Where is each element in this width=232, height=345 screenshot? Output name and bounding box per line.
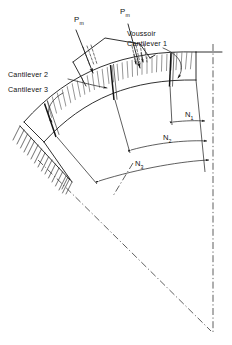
label-cantilever-2: Cantilever 2: [8, 70, 48, 79]
text-labels: Voussoir Cantilever 1 Cantilever 2 Canti…: [8, 7, 167, 94]
arch-dam-diagram: Voussoir Cantilever 1 Cantilever 2 Canti…: [0, 0, 232, 345]
label-load-left-subscript: m: [80, 20, 84, 26]
label-cantilever-3: Cantilever 3: [8, 85, 48, 94]
ext-line-joint-1: [170, 86, 172, 125]
abutment-lower-edge: [44, 142, 72, 182]
diagram-canvas: Voussoir Cantilever 1 Cantilever 2 Canti…: [0, 0, 232, 345]
dim-arc-n3: [99, 160, 209, 181]
label-load-right-subscript: m: [126, 12, 130, 18]
ext-line-joint-3: [57, 137, 97, 184]
label-voussoir-line1: Voussoir: [127, 29, 156, 38]
band-left-cap: [24, 122, 44, 142]
centerlines: [38, 44, 213, 333]
centerline-crown-icon: [113, 163, 133, 196]
intrados-curve: [44, 80, 196, 142]
ext-line-crown: [196, 80, 205, 172]
dimension-lines: N 1 N 2 N 3: [57, 80, 209, 184]
dim-label-n3-sub: 3: [141, 164, 144, 170]
ext-line-joint-2: [115, 100, 130, 153]
joint-cantilever-1: [170, 53, 172, 87]
joint-cantilever-1-b: [173, 53, 175, 87]
annotation-leaders: [48, 48, 181, 122]
dim-label-n2-sub: 2: [169, 138, 172, 144]
abutment-support: [13, 126, 72, 194]
dim-label-n1-sub: 1: [191, 115, 194, 121]
label-load-left: P: [74, 15, 79, 24]
load-polygon-right-leg: [150, 55, 155, 58]
joint-cantilever-2: [111, 65, 115, 100]
leader-cantilever-2: [68, 79, 107, 88]
abutment-lower-hatch-b: [62, 177, 68, 189]
load-tick-r1: [134, 54, 136, 64]
label-load-right: P: [120, 7, 125, 16]
label-voussoir-line2: Cantilever 1: [127, 39, 167, 48]
